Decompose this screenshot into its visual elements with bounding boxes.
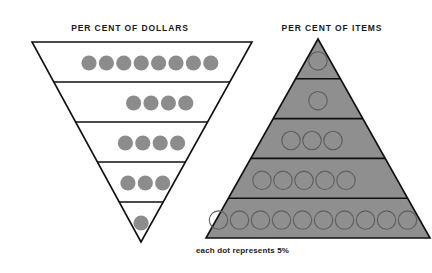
dot bbox=[178, 95, 193, 110]
dot bbox=[153, 135, 168, 150]
dot bbox=[126, 95, 141, 110]
left-figure-inverted-triangle bbox=[32, 42, 252, 242]
dot bbox=[203, 55, 218, 70]
dot bbox=[143, 95, 158, 110]
dot bbox=[99, 55, 114, 70]
dot bbox=[81, 55, 96, 70]
dot bbox=[118, 135, 133, 150]
dot bbox=[168, 55, 183, 70]
chart-canvas bbox=[0, 0, 432, 273]
dot bbox=[120, 175, 135, 190]
dot bbox=[133, 215, 148, 230]
dot bbox=[138, 175, 153, 190]
dot bbox=[135, 135, 150, 150]
dot bbox=[170, 135, 185, 150]
dot bbox=[155, 175, 170, 190]
chart-caption: each dot represents 5% bbox=[196, 246, 376, 255]
chart-page: PER CENT OF DOLLARS PER CENT OF ITEMS ea… bbox=[0, 0, 432, 273]
dot bbox=[161, 95, 176, 110]
dot bbox=[151, 55, 166, 70]
dot bbox=[134, 55, 149, 70]
right-figure-pyramid bbox=[206, 39, 430, 238]
dot bbox=[186, 55, 201, 70]
dot bbox=[116, 55, 131, 70]
